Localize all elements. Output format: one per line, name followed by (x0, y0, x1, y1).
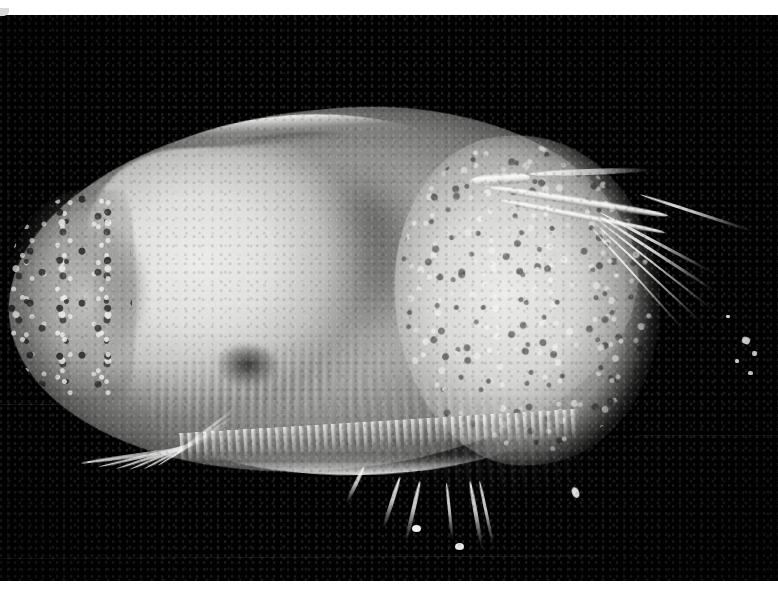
print-bottom-margin (0, 581, 778, 593)
spine-tip (412, 525, 421, 532)
print-top-margin (0, 0, 778, 15)
bright-fleck (735, 359, 739, 363)
bright-fleck (752, 351, 757, 356)
antenna-branch (530, 167, 650, 177)
crustacean-specimen (0, 15, 778, 581)
photograph-image-area (0, 15, 778, 581)
bright-fleck (726, 315, 730, 318)
antenna-base-segment (470, 171, 531, 188)
bright-fleck (748, 371, 753, 375)
antenna-assembly (0, 15, 778, 581)
photomicrograph-frame: photomicrograph (0, 0, 778, 593)
spine-tip (455, 543, 464, 550)
